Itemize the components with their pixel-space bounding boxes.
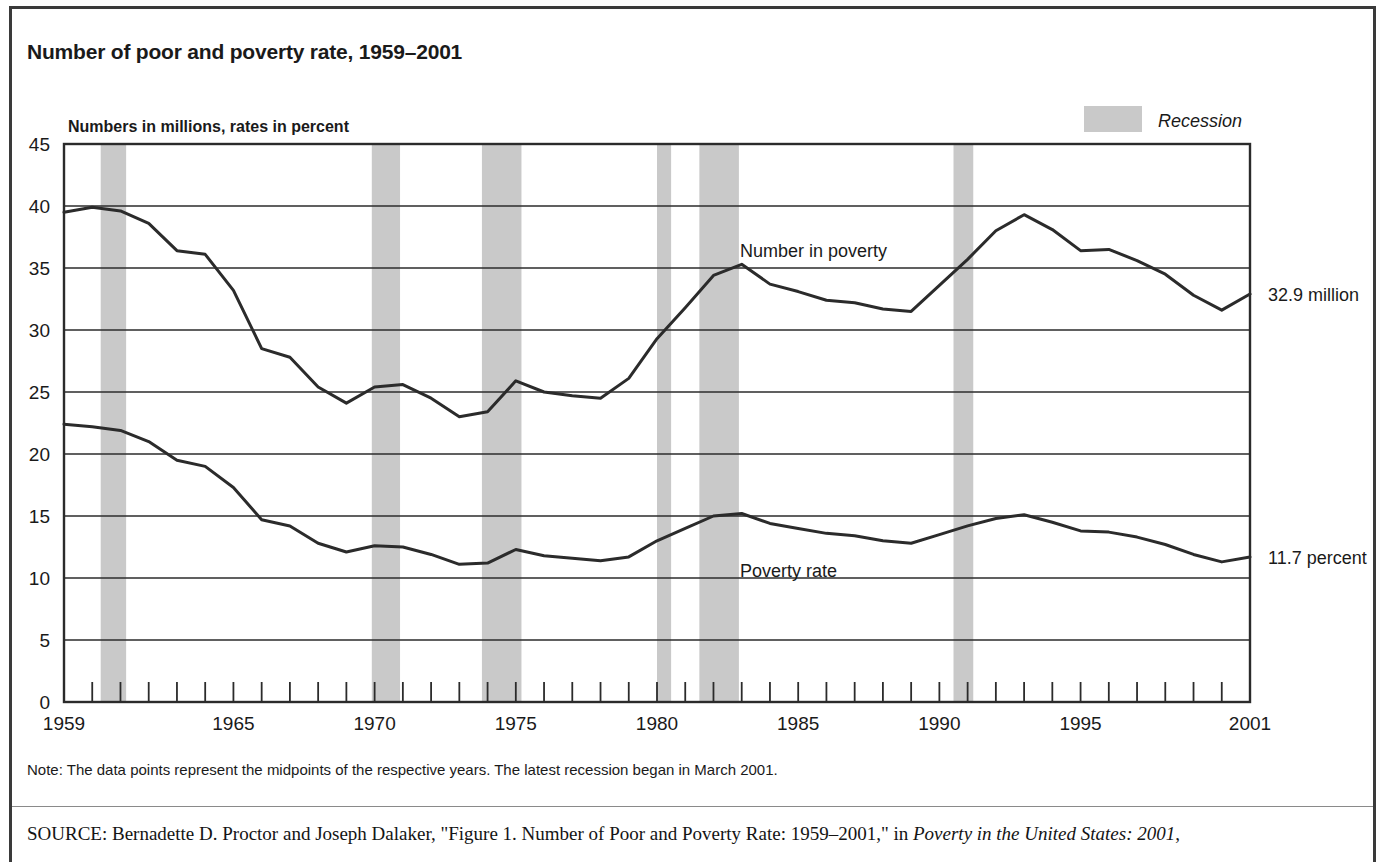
- x-axis-tick-label: 1975: [495, 713, 537, 734]
- y-axis-tick-label: 25: [29, 382, 50, 403]
- x-axis-tick-label: 1990: [918, 713, 960, 734]
- chart-subtitle: Numbers in millions, rates in percent: [68, 118, 350, 135]
- endpoint-label-number: 32.9 million: [1268, 285, 1359, 305]
- recession-band: [699, 144, 739, 702]
- poverty-line-chart: 051015202530354045 195919651970197519801…: [0, 100, 1388, 750]
- recession-band: [482, 144, 522, 702]
- x-axis-tick-label: 1995: [1059, 713, 1101, 734]
- endpoint-label-rate: 11.7 percent: [1268, 548, 1367, 568]
- y-axis-tick-label: 5: [39, 630, 50, 651]
- page-title: Number of poor and poverty rate, 1959–20…: [27, 40, 462, 64]
- frame-border-top: [9, 6, 1376, 9]
- y-axis-tick-label: 10: [29, 568, 50, 589]
- x-axis-tick-label: 1959: [43, 713, 85, 734]
- x-ticks-group: [64, 682, 1250, 702]
- y-axis-tick-label: 35: [29, 258, 50, 279]
- y-axis-tick-label: 0: [39, 692, 50, 713]
- source-text-before: : Bernadette D. Proctor and Joseph Dalak…: [102, 823, 913, 844]
- x-axis-tick-label: 2001: [1229, 713, 1271, 734]
- recession-band: [657, 144, 671, 702]
- x-tick-labels-group: 195919651970197519801985199019952001: [43, 713, 1271, 734]
- y-axis-tick-label: 45: [29, 134, 50, 155]
- source-label: SOURCE: [27, 823, 102, 844]
- source-title-italic: Poverty in the United States: 2001: [913, 823, 1175, 844]
- chart-container: 051015202530354045 195919651970197519801…: [0, 100, 1388, 750]
- recession-band: [954, 144, 974, 702]
- figure-note: Note: The data points represent the midp…: [27, 761, 778, 778]
- series-label-number-in-poverty: Number in poverty: [740, 241, 887, 261]
- figure-source: SOURCE: Bernadette D. Proctor and Joseph…: [27, 823, 1180, 845]
- x-axis-tick-label: 1985: [777, 713, 819, 734]
- source-text-after: ,: [1175, 823, 1180, 844]
- y-axis-tick-label: 15: [29, 506, 50, 527]
- x-axis-tick-label: 1980: [636, 713, 678, 734]
- recession-band: [372, 144, 400, 702]
- legend-recession-label: Recession: [1158, 111, 1242, 131]
- recession-band: [101, 144, 126, 702]
- source-divider: [12, 806, 1373, 807]
- figure-page: Number of poor and poverty rate, 1959–20…: [0, 0, 1388, 862]
- y-axis-tick-label: 40: [29, 196, 50, 217]
- x-axis-tick-label: 1970: [353, 713, 395, 734]
- y-tick-labels-group: 051015202530354045: [29, 134, 50, 713]
- x-axis-tick-label: 1965: [212, 713, 254, 734]
- recession-bands-group: [101, 144, 1251, 702]
- series-label-poverty-rate: Poverty rate: [740, 561, 837, 581]
- y-axis-tick-label: 30: [29, 320, 50, 341]
- y-axis-tick-label: 20: [29, 444, 50, 465]
- legend-recession-swatch: [1084, 106, 1142, 132]
